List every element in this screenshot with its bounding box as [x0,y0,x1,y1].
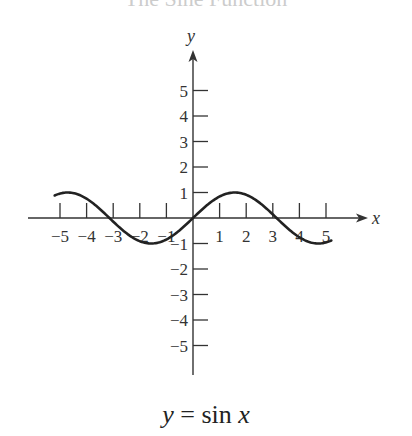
equation-caption: y = sin x [0,400,412,430]
sine-plot: xy−5−4−3−2−112345−5−4−3−2−112345 [0,0,412,400]
y-tick-label: −4 [170,311,189,330]
x-tick-label: 2 [242,227,251,246]
equation-var: x [238,400,250,429]
y-tick-label: −5 [170,337,188,356]
y-axis-label: y [185,26,195,46]
y-tick-label: −2 [170,260,188,279]
equation-fn: sin [201,400,231,429]
x-tick-label: −5 [51,227,69,246]
x-tick-label: −3 [104,227,122,246]
x-tick-label: 3 [269,227,278,246]
y-tick-label: 2 [180,158,189,177]
y-tick-label: −1 [170,235,188,254]
y-tick-label: 5 [180,82,189,101]
x-tick-label: −4 [78,227,97,246]
y-tick-label: 3 [180,133,189,152]
y-tick-label: 1 [180,184,189,203]
equation-lhs: y [162,400,174,429]
y-tick-label: −3 [170,286,188,305]
x-tick-label: 1 [215,227,224,246]
y-tick-label: 4 [180,107,189,126]
x-axis-label: x [371,208,380,228]
equation-equals: = [180,400,195,429]
